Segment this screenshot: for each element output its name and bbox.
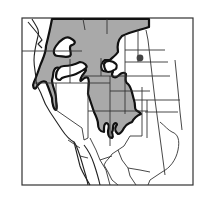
range-gap-east: [104, 61, 117, 72]
range-map: [0, 0, 203, 200]
map-svg: [0, 0, 203, 200]
isolated-occurrence-point: [137, 55, 144, 62]
